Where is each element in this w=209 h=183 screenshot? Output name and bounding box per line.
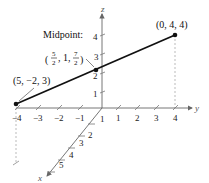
x-tick-label: 3 bbox=[79, 138, 84, 148]
midpoint-z-denominator: 2 bbox=[74, 59, 78, 67]
x-tick-label: 5 bbox=[59, 160, 64, 170]
z-axis-label: z bbox=[100, 4, 105, 14]
point-end-label: (0, 4, 4) bbox=[156, 19, 188, 31]
x-axis: 1 2 3 4 5 x bbox=[37, 108, 105, 183]
midpoint-title: Midpoint: bbox=[43, 29, 83, 40]
right-paren: ) bbox=[80, 54, 83, 66]
3d-coordinate-diagram: y −4 −3 −2 −1 1 2 3 4 z 1 2 3 4 bbox=[0, 0, 209, 183]
midpoint-x-numerator: 5 bbox=[52, 50, 56, 58]
svg-text:,: , bbox=[58, 52, 61, 63]
z-tick-label: 1 bbox=[93, 89, 98, 99]
midpoint-z-numerator: 7 bbox=[74, 50, 78, 58]
point-start-label: (5, −2, 3) bbox=[13, 75, 50, 87]
x-tick-label: 4 bbox=[69, 150, 74, 160]
midpoint-coordinates: ( 5 2 , 1 , 7 2 ) bbox=[45, 50, 83, 67]
svg-text:,: , bbox=[68, 52, 71, 63]
y-tick-label: 4 bbox=[173, 113, 178, 123]
y-tick-label: 2 bbox=[135, 113, 140, 123]
y-tick-label: 1 bbox=[116, 113, 121, 123]
y-tick-label: −3 bbox=[33, 113, 43, 123]
x-tick-label: 2 bbox=[88, 130, 93, 140]
z-tick-label: 4 bbox=[93, 32, 98, 42]
y-tick-label: 3 bbox=[154, 113, 159, 123]
midpoint-x-denominator: 2 bbox=[52, 59, 56, 67]
point-start bbox=[14, 102, 19, 107]
z-axis: z 1 2 3 4 bbox=[93, 4, 105, 108]
point-midpoint bbox=[94, 68, 99, 73]
y-axis-label: y bbox=[194, 103, 199, 113]
y-axis: y −4 −3 −2 −1 1 2 3 4 bbox=[12, 103, 199, 123]
point-end bbox=[173, 33, 178, 38]
y-tick-label: −4 bbox=[12, 113, 22, 123]
z-tick-label: 2 bbox=[93, 71, 98, 81]
z-tick-label: 3 bbox=[94, 52, 99, 62]
y-tick-label: −2 bbox=[54, 113, 64, 123]
y-tick-label: −1 bbox=[75, 113, 85, 123]
x-tick-label: 1 bbox=[100, 114, 105, 124]
left-paren: ( bbox=[45, 54, 49, 66]
x-axis-label: x bbox=[37, 173, 42, 183]
midpoint-leader bbox=[86, 59, 94, 67]
